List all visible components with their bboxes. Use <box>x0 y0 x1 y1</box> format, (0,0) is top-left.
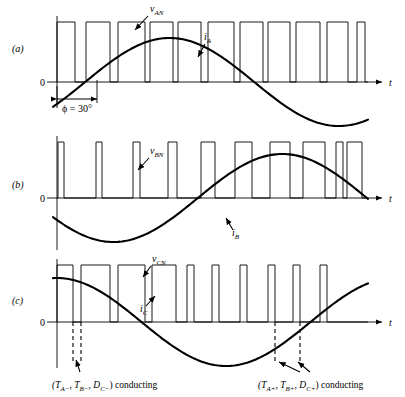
t-axis-label-c: t <box>389 317 392 328</box>
voltage-label-a: vAN <box>150 3 164 17</box>
phase-annotation-label: ϕ = 30° <box>62 103 92 114</box>
waveform-figure: t0(a)t0(b)t0(c)vANiAϕ = 30°vBNiBvCNiC(TA… <box>0 0 405 397</box>
panel-label-a: (a) <box>12 43 24 55</box>
t-axis-label-b: t <box>389 193 392 204</box>
annotation-leader-left <box>76 360 80 372</box>
t-axis-label-a: t <box>389 77 392 88</box>
current-label-b: iB <box>232 227 240 241</box>
current-leader-b <box>226 218 233 230</box>
panel-label-b: (b) <box>12 179 24 191</box>
zero-label-a: 0 <box>40 77 45 88</box>
panel-label-c: (c) <box>12 295 24 307</box>
figure-canvas: t0(a)t0(b)t0(c)vANiAϕ = 30°vBNiBvCNiC(TA… <box>0 0 405 397</box>
conducting-annotation-left: (TA−, TB−, DC−) conducting <box>52 380 158 393</box>
zero-label-b: 0 <box>40 193 45 204</box>
voltage-label-b: vBN <box>150 145 164 159</box>
zero-label-c: 0 <box>40 317 45 328</box>
conducting-annotation-right: (TA+, TB+, DC+) conducting <box>258 380 364 393</box>
pulse-train-b <box>57 142 368 198</box>
annotation-leader-right-1 <box>279 362 300 372</box>
voltage-leader-a <box>135 16 148 30</box>
current-leader-c <box>146 296 155 306</box>
annotation-leader-right-2 <box>298 362 310 372</box>
voltage-label-c: vCN <box>152 253 166 267</box>
voltage-leader-c <box>143 266 151 277</box>
